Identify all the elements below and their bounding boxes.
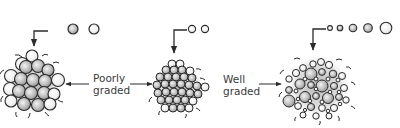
well-graded-label: Well graded bbox=[223, 73, 260, 97]
feed-arrow-1 bbox=[34, 31, 48, 46]
well-graded-line1: Well bbox=[223, 73, 260, 85]
poorly-graded-line1: Poorly bbox=[93, 72, 130, 84]
poorly-graded-line2: graded bbox=[93, 84, 130, 96]
legend-particles-poorly-small bbox=[188, 25, 208, 32]
legend-particles-poorly-large bbox=[68, 24, 99, 34]
legend-particles-well-mixed bbox=[328, 22, 392, 34]
two-size-cluster bbox=[149, 60, 209, 118]
well-graded-cluster bbox=[279, 54, 355, 125]
grading-diagram: Poorly graded Well graded bbox=[0, 0, 400, 128]
well-graded-line2: graded bbox=[223, 85, 260, 97]
single-size-cluster bbox=[0, 50, 65, 118]
feed-arrow-2 bbox=[174, 30, 187, 53]
feed-arrow-3 bbox=[313, 29, 326, 50]
poorly-graded-label: Poorly graded bbox=[93, 72, 130, 96]
